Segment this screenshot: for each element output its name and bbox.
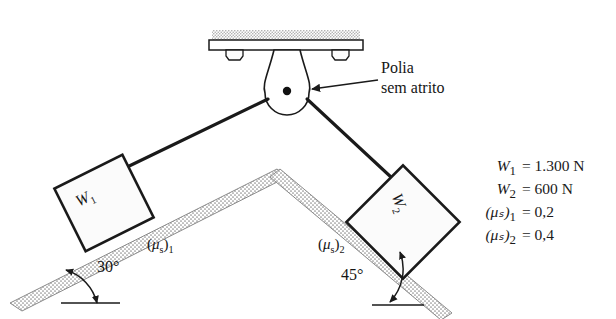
angle-45-label: 45° bbox=[341, 266, 363, 284]
callout-line-1: Polia bbox=[381, 58, 445, 78]
cords bbox=[123, 99, 392, 178]
mu-s-1-label: (μs)1 bbox=[147, 236, 174, 255]
ceiling-plate bbox=[209, 40, 363, 50]
given-values-list: W1= 1.300 N W2= 600 N (μₛ)1= 0,2 (μₛ)2= … bbox=[470, 157, 585, 249]
cord-right bbox=[307, 99, 392, 178]
ceiling-hatch-band bbox=[212, 30, 360, 40]
block-w1 bbox=[54, 155, 153, 252]
mu-s-2-label: (μs)2 bbox=[318, 236, 345, 255]
frictionless-pulley-callout: Polia sem atrito bbox=[381, 58, 445, 99]
pulley-assembly bbox=[264, 50, 310, 115]
angle-30-label: 30° bbox=[97, 258, 119, 276]
pulley-bracket-yoke bbox=[264, 50, 310, 115]
equation-row: (μₛ)1= 0,2 bbox=[470, 203, 585, 226]
block-w1-body bbox=[54, 155, 153, 252]
equation-row: W2= 600 N bbox=[470, 180, 585, 203]
bolt-head-right bbox=[332, 50, 349, 60]
callout-leader-arrow bbox=[312, 80, 378, 89]
bolt-head-left bbox=[226, 50, 243, 60]
cord-left bbox=[123, 99, 268, 169]
callout-line-2: sem atrito bbox=[381, 78, 445, 98]
equation-row: (μₛ)2= 0,4 bbox=[470, 226, 585, 249]
equation-row: W1= 1.300 N bbox=[470, 157, 585, 180]
pulley-axle-dot bbox=[283, 87, 291, 95]
